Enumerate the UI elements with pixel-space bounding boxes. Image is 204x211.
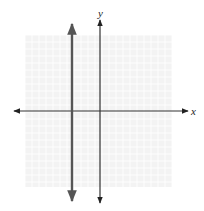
y-axis-label: y xyxy=(97,7,103,19)
coordinate-plane: y x xyxy=(0,0,204,211)
x-axis-label: x xyxy=(190,105,196,117)
